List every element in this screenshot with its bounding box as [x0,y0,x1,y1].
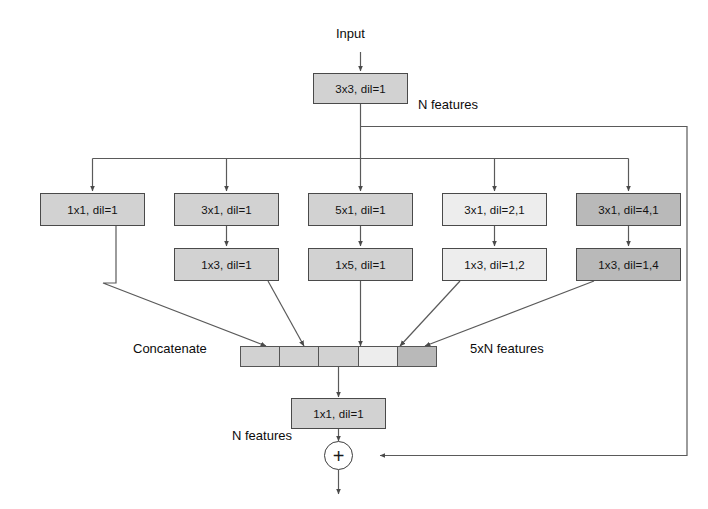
concat-segment-1 [241,347,280,366]
branch-3-second-conv-box[interactable]: 1x5, dil=1 [308,248,413,281]
branch-4-second-conv-box[interactable]: 1x3, dil=1,2 [442,248,547,281]
branch-3-first-conv-box[interactable]: 5x1, dil=1 [308,193,413,226]
concat-segment-4 [359,347,398,366]
wire-skip-connection [361,127,688,456]
diagram-canvas: Input N features Concatenate 5xN feature… [0,0,708,509]
concat-segment-2 [280,347,319,366]
branch-2-first-conv-box[interactable]: 3x1, dil=1 [174,193,279,226]
concatenate-label: Concatenate [133,341,207,356]
wire-branch-2-to-concat [268,281,304,346]
concat-segment-3 [319,347,358,366]
five-n-features-label: 5xN features [470,341,544,356]
add-node[interactable]: + [324,441,353,470]
n-features-bottom-label: N features [232,428,292,443]
wire-branch-1-to-concat [103,226,266,346]
branch-5-first-conv-box[interactable]: 3x1, dil=4,1 [576,193,681,226]
input-label: Input [336,26,365,41]
concat-segment-5 [398,347,436,366]
concatenate-bar[interactable] [240,346,437,367]
n-features-top-label: N features [418,97,478,112]
branch-5-second-conv-box[interactable]: 1x3, dil=1,4 [576,248,681,281]
branch-1-first-conv-box[interactable]: 1x1, dil=1 [40,193,145,226]
stem-conv-box[interactable]: 3x3, dil=1 [313,73,408,104]
branch-2-second-conv-box[interactable]: 1x3, dil=1 [174,248,279,281]
branch-4-first-conv-box[interactable]: 3x1, dil=2,1 [442,193,547,226]
projection-conv-box[interactable]: 1x1, dil=1 [291,398,386,429]
